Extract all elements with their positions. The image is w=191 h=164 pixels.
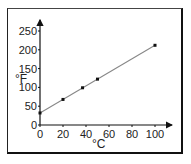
- data-point: [81, 86, 84, 89]
- y-axis-label: °F: [15, 72, 27, 86]
- x-tick-label: 20: [57, 128, 69, 140]
- data-point: [62, 98, 65, 101]
- data-point: [96, 78, 99, 81]
- data-point: [154, 44, 157, 47]
- x-tick-label: 80: [126, 128, 138, 140]
- x-tick-label: 40: [80, 128, 92, 140]
- y-tick-label: 50: [25, 100, 37, 112]
- y-tick-label: 200: [19, 44, 37, 56]
- data-point: [39, 111, 42, 114]
- x-tick-label: 100: [146, 128, 164, 140]
- x-axis-label: °C: [92, 137, 106, 151]
- x-tick-label: 0: [37, 128, 43, 140]
- chart-plot: 050100150200250 020406080100 °F °C: [0, 0, 191, 164]
- y-tick-label: 250: [19, 25, 37, 37]
